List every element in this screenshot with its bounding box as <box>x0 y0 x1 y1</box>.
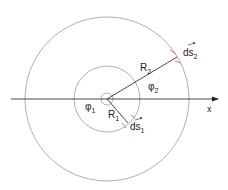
ds1-vector-arrow <box>135 118 142 120</box>
diagram-canvas: x R2 R1 φ1 φ2 ds2 ds1 <box>0 0 228 190</box>
label-phi2: φ2 <box>148 81 158 94</box>
label-ds2: ds2 <box>183 47 198 60</box>
ds2-vector-arrow <box>188 43 195 45</box>
label-ds1: ds1 <box>130 121 145 134</box>
x-axis-label: x <box>207 104 212 114</box>
label-r2: R2 <box>140 62 151 75</box>
label-phi1: φ1 <box>85 101 95 114</box>
